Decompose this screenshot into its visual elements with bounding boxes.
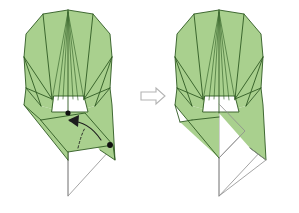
left-inner-white-trapezoid [52, 96, 88, 112]
corner-reference-dot [107, 142, 113, 148]
right-inner-white-trapezoid [203, 96, 239, 112]
step-arrow-icon [141, 88, 165, 104]
right-folded-flap [180, 117, 219, 158]
origami-diagram [0, 0, 299, 213]
diagram-canvas [0, 0, 299, 213]
right-panel-after-fold [175, 10, 266, 196]
step-transition-arrow [141, 88, 165, 104]
left-panel-before-fold [24, 10, 115, 196]
center-reference-dot [65, 110, 70, 115]
